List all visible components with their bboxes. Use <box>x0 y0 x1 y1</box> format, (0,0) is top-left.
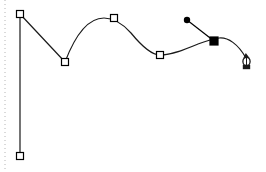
pen-nib-body-icon <box>243 65 250 69</box>
anchor-point-6[interactable]: Anchor 6 (selected) <box>210 37 218 45</box>
anchor-point-5[interactable]: Anchor 5 (right valley) <box>157 52 164 59</box>
canvas-background <box>0 0 266 172</box>
anchor-point-1[interactable]: Anchor 1 (top left) <box>17 11 24 18</box>
vector-editor-canvas[interactable]: Pen Tool Path Editing Canvas Anchor 1 (t… <box>0 0 266 172</box>
anchor-point-2[interactable]: Anchor 2 (bottom left) <box>17 153 24 160</box>
anchor-point-4[interactable]: Anchor 4 (arch peak) <box>111 15 118 22</box>
anchor-point-3[interactable]: Anchor 3 (valley) <box>62 59 69 66</box>
direction-handle-dot[interactable] <box>184 17 190 23</box>
path-drawing-surface[interactable]: Anchor 1 (top left)Anchor 2 (bottom left… <box>0 0 266 172</box>
